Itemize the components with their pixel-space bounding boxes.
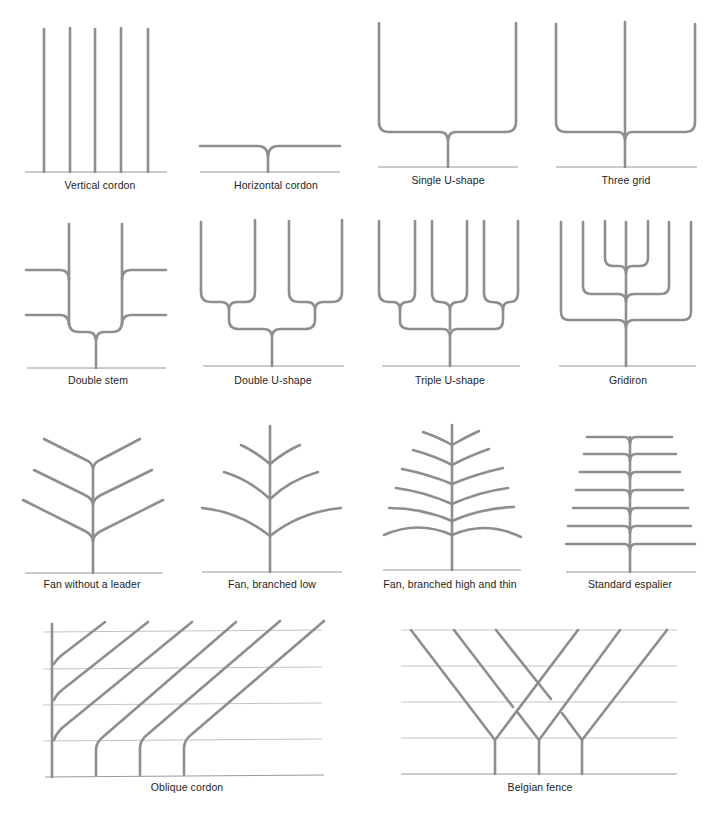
label-single-u-shape: Single U-shape: [411, 174, 484, 186]
double-stem-drawing: [26, 224, 166, 368]
label-fan-branched-low: Fan, branched low: [228, 578, 316, 590]
label-three-grid: Three grid: [602, 174, 651, 186]
label-oblique-cordon: Oblique cordon: [151, 781, 224, 793]
label-belgian-fence: Belgian fence: [508, 781, 573, 793]
label-gridiron: Gridiron: [609, 374, 647, 386]
fan-branched-high-thin-drawing: [383, 425, 521, 570]
belgian-fence-drawing: [401, 630, 677, 774]
fan-branched-low-drawing: [202, 426, 342, 572]
label-triple-u-shape: Triple U-shape: [415, 374, 485, 386]
three-grid-drawing: [556, 22, 697, 167]
label-fan-branched-high-thin: Fan, branched high and thin: [383, 578, 516, 590]
triple-u-shape-drawing: [379, 221, 520, 366]
label-vertical-cordon: Vertical cordon: [65, 179, 136, 191]
label-horizontal-cordon: Horizontal cordon: [234, 179, 318, 191]
label-double-u-shape: Double U-shape: [234, 374, 311, 386]
oblique-cordon-drawing: [43, 621, 324, 777]
single-u-shape-drawing: [378, 23, 518, 167]
double-u-shape-drawing: [201, 220, 344, 366]
label-double-stem: Double stem: [68, 374, 128, 386]
standard-espalier-drawing: [566, 437, 696, 572]
label-fan-without-leader: Fan without a leader: [43, 578, 140, 590]
horizontal-cordon-drawing: [200, 146, 340, 172]
fan-without-leader-drawing: [23, 439, 163, 573]
vertical-cordon-drawing: [25, 28, 167, 172]
gridiron-drawing: [559, 221, 696, 366]
label-standard-espalier: Standard espalier: [588, 578, 672, 590]
training-forms-diagram: [0, 0, 721, 822]
